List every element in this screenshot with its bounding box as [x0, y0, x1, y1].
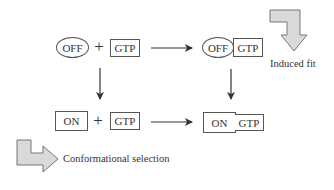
- gtp-box: GTP: [110, 39, 140, 57]
- off-state-ellipse-bound: OFF: [202, 37, 234, 58]
- on-state-box: ON: [55, 111, 88, 131]
- induced-fit-arrow-icon: [270, 10, 307, 51]
- gtp-box-bound: GTP: [233, 38, 263, 57]
- gtp-box: GTP: [110, 112, 140, 130]
- induced-fit-label: Induced fit: [270, 58, 316, 69]
- on-state-box-bound: ON: [203, 112, 236, 133]
- conformational-selection-arrow-icon: [17, 140, 58, 172]
- plus-sign: +: [92, 38, 106, 55]
- conformational-selection-label: Conformational selection: [63, 153, 169, 164]
- gtp-box-bound: GTP: [235, 114, 264, 131]
- plus-sign: +: [91, 112, 105, 129]
- off-state-ellipse: OFF: [56, 37, 89, 58]
